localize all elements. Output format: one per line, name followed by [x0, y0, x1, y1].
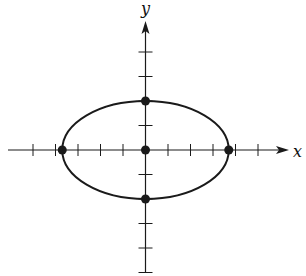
- point-right-vertex: [224, 146, 233, 155]
- point-top-covertex: [141, 97, 150, 106]
- y-axis-label: y: [140, 0, 151, 18]
- ellipse-diagram: x y: [0, 0, 306, 276]
- point-center: [141, 146, 150, 155]
- point-bottom-covertex: [141, 195, 150, 204]
- point-left-vertex: [58, 146, 67, 155]
- axes: [8, 21, 289, 272]
- x-axis-label: x: [293, 142, 302, 161]
